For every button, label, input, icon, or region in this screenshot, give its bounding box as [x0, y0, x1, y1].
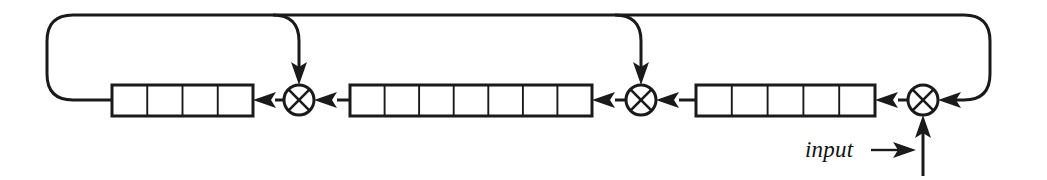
wire-register-right-to-xor2	[656, 92, 696, 108]
xor-gate-3	[908, 85, 938, 115]
feedback-tap-branch-1	[273, 15, 307, 85]
arrowhead-left-xor-2	[656, 92, 679, 108]
xor-gate-1	[284, 85, 314, 115]
feedback-tap-branch-2	[615, 15, 649, 85]
input-signal-wire	[915, 115, 931, 176]
arrowhead-left-register-right	[875, 92, 898, 108]
arrowhead-left-register-left	[253, 92, 276, 108]
wire-xor2-to-register-middle	[592, 92, 626, 108]
register-middle-outline	[350, 85, 592, 116]
input-label: input	[805, 137, 854, 162]
register-middle	[350, 85, 592, 116]
lfsr-diagram-canvas: input	[0, 0, 1047, 180]
wire-xor1-to-register-left	[253, 92, 284, 108]
arrowhead-left-xor-1	[314, 92, 337, 108]
lfsr-diagram-svg: input	[0, 0, 1047, 180]
input-label-group: input	[805, 137, 916, 162]
arrowhead-left-register-middle	[592, 92, 615, 108]
register-right	[696, 85, 875, 116]
register-left	[112, 85, 253, 116]
xor-gate-2	[626, 85, 656, 115]
register-right-outline	[696, 85, 875, 116]
wire-xor3-to-register-right	[875, 92, 908, 108]
wire-register-middle-to-xor1	[314, 92, 350, 108]
